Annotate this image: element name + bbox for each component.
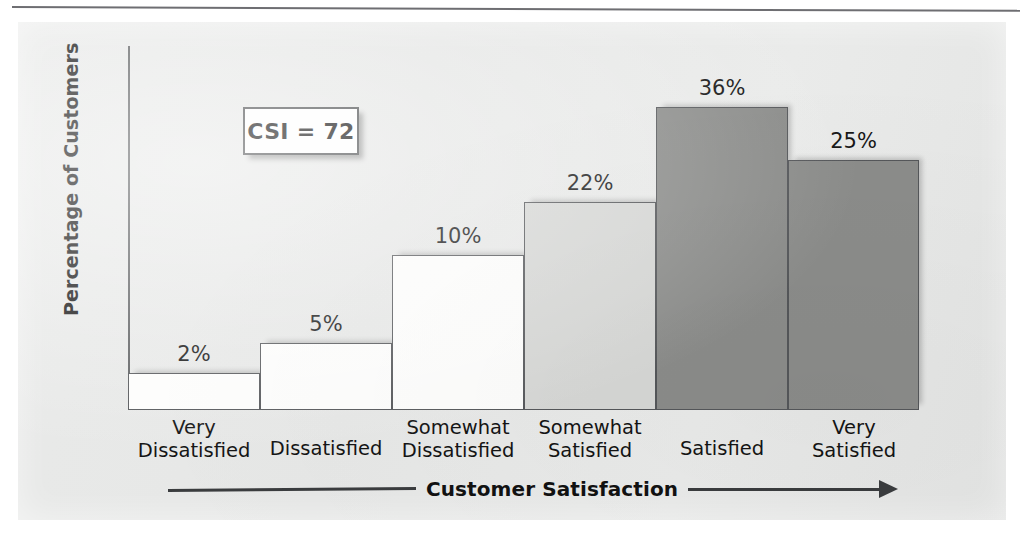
category-label-line: Satisfied [518, 439, 662, 462]
category-label-line: Somewhat [386, 416, 530, 439]
figure-panel: Percentage of Customers 2% 5% 10% 22% 36… [18, 22, 1006, 520]
category-label-somewhat-satisfied: Somewhat Satisfied [518, 416, 662, 462]
category-label-very-satisfied: Very Satisfied [782, 416, 926, 462]
category-label-line: Dissatisfied [122, 439, 266, 462]
page-top-rule [12, 6, 1020, 12]
category-label-line: Dissatisfied [386, 439, 530, 462]
bar-value-somewhat-dissatisfied: 10% [392, 224, 524, 248]
bar-value-satisfied: 36% [656, 76, 788, 100]
category-label-somewhat-dissatisfied: Somewhat Dissatisfied [386, 416, 530, 462]
bar-very-satisfied [788, 160, 919, 410]
bar-somewhat-dissatisfied [392, 255, 524, 410]
category-label-very-dissatisfied: Very Dissatisfied [122, 416, 266, 462]
arrow-head-icon [879, 480, 898, 498]
arrow-right-line [688, 488, 880, 491]
bar-value-dissatisfied: 5% [260, 312, 392, 336]
category-label-satisfied: Satisfied [650, 437, 794, 460]
category-label-line: Dissatisfied [254, 437, 398, 460]
bar-very-dissatisfied [128, 373, 260, 410]
y-axis-title: Percentage of Customers [60, 86, 82, 316]
bar-value-very-dissatisfied: 2% [128, 342, 260, 366]
category-label-dissatisfied: Dissatisfied [254, 437, 398, 460]
csi-callout-box: CSI = 72 [243, 107, 359, 155]
category-label-line: Very [122, 416, 266, 439]
x-axis-caption: Customer Satisfaction [426, 477, 678, 501]
x-axis-direction-arrow: Customer Satisfaction [168, 474, 898, 504]
arrow-left-line [168, 486, 416, 491]
bar-satisfied [656, 107, 788, 410]
bar-chart: Percentage of Customers 2% 5% 10% 22% 36… [18, 22, 1006, 520]
category-label-line: Satisfied [650, 437, 794, 460]
arrow-right-group [688, 480, 898, 498]
category-label-line: Satisfied [782, 439, 926, 462]
bar-dissatisfied [260, 343, 392, 410]
category-label-line: Very [782, 416, 926, 439]
bar-value-somewhat-satisfied: 22% [524, 171, 656, 195]
category-label-line: Somewhat [518, 416, 662, 439]
bar-value-very-satisfied: 25% [788, 129, 919, 153]
bar-somewhat-satisfied [524, 202, 656, 410]
